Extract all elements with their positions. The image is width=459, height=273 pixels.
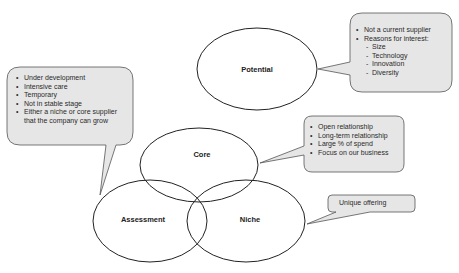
- callout-core-text: Open relationship Long-term relationship…: [310, 123, 388, 157]
- label-core: Core: [193, 150, 210, 159]
- callout-item: Long-term relationship: [310, 132, 388, 141]
- callout-item: Not a current supplier: [356, 26, 431, 35]
- callout-item: Focus on our business: [310, 149, 388, 158]
- callout-niche-text: Unique offering: [339, 199, 386, 208]
- callout-item: Either a niche or core supplier: [16, 108, 117, 117]
- callout-item: Intensive care: [16, 83, 117, 92]
- callout-item-continuation: that the company can grow: [16, 117, 117, 126]
- callout-item: Open relationship: [310, 123, 388, 132]
- callout-item: Not in stable stage: [16, 100, 117, 109]
- callout-item: Large % of spend: [310, 140, 388, 149]
- callout-subitem: Diversity: [356, 69, 431, 78]
- callout-assessment-text: Under development Intensive care Tempora…: [16, 74, 117, 126]
- callout-item: Temporary: [16, 91, 117, 100]
- callout-potential-text: Not a current supplier Reasons for inter…: [356, 26, 431, 78]
- callout-item: Reasons for interest:: [356, 35, 431, 44]
- callout-subitem: Innovation: [356, 60, 431, 69]
- label-niche: Niche: [240, 215, 260, 224]
- callout-subitem: Technology: [356, 52, 431, 61]
- label-assessment: Assessment: [121, 215, 165, 224]
- callout-item: Under development: [16, 74, 117, 83]
- callout-subitem: Size: [356, 43, 431, 52]
- label-potential: Potential: [241, 65, 273, 74]
- ellipse-core: [140, 128, 258, 202]
